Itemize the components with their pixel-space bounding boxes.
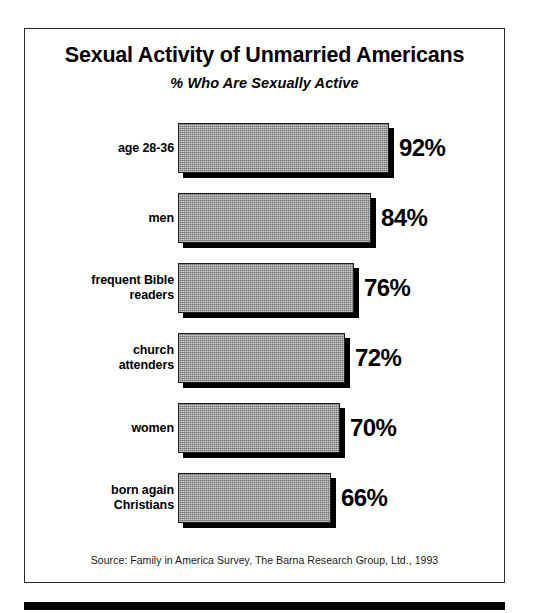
bar-category-label: men — [4, 193, 174, 243]
bar-category-label: church attenders — [4, 333, 174, 383]
bar-category-label: frequent Bible readers — [4, 263, 174, 313]
bar-row: women 70% — [25, 403, 506, 461]
bar-row: born again Christians 66% — [25, 473, 506, 531]
bar-fill — [178, 193, 371, 243]
bar-men — [178, 193, 371, 243]
bar-category-label-line: readers — [130, 288, 174, 303]
bar-chart-plot-area: age 28-36 92% men 84% frequent Bible rea — [25, 123, 506, 543]
bar-value-label: 84% — [381, 193, 427, 243]
bar-row: frequent Bible readers 76% — [25, 263, 506, 321]
bar-category-label-line: men — [149, 211, 174, 226]
bar-born-again-christians — [178, 473, 331, 523]
bar-church-attenders — [178, 333, 345, 383]
bar-fill — [178, 123, 389, 173]
bar-fill — [178, 403, 340, 453]
bar-fill — [178, 263, 354, 313]
bar-women — [178, 403, 340, 453]
bar-category-label: women — [4, 403, 174, 453]
bar-category-label-line: born again — [111, 483, 174, 498]
bar-category-label-line: church — [133, 343, 174, 358]
bar-value-label: 70% — [350, 403, 396, 453]
bar-category-label-line: women — [131, 421, 174, 436]
bar-category-label: age 28-36 — [4, 123, 174, 173]
bar-row: men 84% — [25, 193, 506, 251]
chart-subtitle: % Who Are Sexually Active — [25, 75, 504, 91]
bar-category-label: born again Christians — [4, 473, 174, 523]
bar-age-28-36 — [178, 123, 389, 173]
bar-value-label: 66% — [341, 473, 387, 523]
bar-value-label: 72% — [355, 333, 401, 383]
bar-category-label-line: frequent Bible — [91, 273, 174, 288]
bar-category-label-line: Christians — [114, 498, 174, 513]
bar-frequent-bible-readers — [178, 263, 354, 313]
bar-value-label: 76% — [364, 263, 410, 313]
bar-value-label: 92% — [399, 123, 445, 173]
bar-category-label-line: age 28-36 — [118, 141, 174, 156]
chart-frame: Sexual Activity of Unmarried Americans %… — [24, 28, 505, 583]
bar-fill — [178, 473, 331, 523]
bar-row: age 28-36 92% — [25, 123, 506, 181]
title-block: Sexual Activity of Unmarried Americans %… — [25, 43, 504, 91]
bar-row: church attenders 72% — [25, 333, 506, 391]
source-note: Source: Family in America Survey, The Ba… — [25, 554, 504, 566]
bottom-divider-rule — [24, 602, 505, 610]
bar-fill — [178, 333, 345, 383]
chart-title: Sexual Activity of Unmarried Americans — [25, 43, 504, 68]
bar-category-label-line: attenders — [119, 358, 174, 373]
